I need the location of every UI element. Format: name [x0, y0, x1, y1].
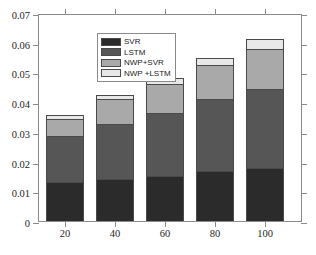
- chart-legend: SVRLSTMNWP+SVRNWP +LSTM: [97, 33, 176, 82]
- y-axis-label: 0.03: [12, 128, 30, 139]
- x-axis-label: 40: [110, 228, 121, 239]
- bar-segment-svr[interactable]: [96, 179, 134, 221]
- bar-segment-nwp-svr[interactable]: [96, 99, 134, 124]
- plot-area: 00.010.020.030.040.050.060.07 2040608010…: [38, 14, 302, 222]
- x-axis-label: 20: [60, 228, 71, 239]
- x-axis-tick: [165, 221, 166, 227]
- x-axis-tick: [265, 221, 266, 227]
- bar-segment-lstm[interactable]: [196, 99, 234, 172]
- x-axis-label: 80: [210, 228, 221, 239]
- y-axis-tick-right: [301, 104, 307, 105]
- x-axis-label: 100: [257, 228, 273, 239]
- legend-swatch: [101, 69, 121, 77]
- legend-swatch: [101, 59, 121, 67]
- y-axis-tick-right: [301, 74, 307, 75]
- bar-segment-svr[interactable]: [246, 168, 284, 221]
- legend-item-svr[interactable]: SVR: [101, 37, 172, 47]
- legend-item-nwp-svr[interactable]: NWP+SVR: [101, 58, 172, 68]
- y-axis-tick-right: [301, 45, 307, 46]
- legend-label: NWP +LSTM: [124, 69, 171, 78]
- figure: 00.010.020.030.040.050.060.07 2040608010…: [0, 0, 316, 255]
- bar-segment-svr[interactable]: [196, 171, 234, 221]
- bar-segment-svr[interactable]: [46, 182, 84, 221]
- bar-100[interactable]: [246, 39, 284, 221]
- legend-label: NWP+SVR: [124, 58, 164, 67]
- y-axis-label: 0.07: [12, 10, 30, 21]
- bar-segment-svr[interactable]: [146, 176, 184, 221]
- bar-segment-lstm[interactable]: [46, 136, 84, 182]
- bar-80[interactable]: [196, 58, 234, 221]
- legend-swatch: [101, 38, 121, 46]
- x-axis-tick: [65, 221, 66, 227]
- bar-60[interactable]: [146, 78, 184, 221]
- y-axis-tick-right: [301, 193, 307, 194]
- y-axis-tick-right: [301, 15, 307, 16]
- y-axis-label: 0.05: [12, 69, 30, 80]
- bar-40[interactable]: [96, 95, 134, 221]
- bar-segment-nwp--lstm[interactable]: [246, 39, 284, 49]
- bar-segment-lstm[interactable]: [246, 89, 284, 168]
- legend-item-lstm[interactable]: LSTM: [101, 47, 172, 57]
- bar-segment-nwp-svr[interactable]: [46, 119, 84, 137]
- y-axis-tick-right: [301, 164, 307, 165]
- x-axis-tick: [215, 221, 216, 227]
- legend-swatch: [101, 48, 121, 56]
- bar-segment-lstm[interactable]: [146, 113, 184, 176]
- y-axis-label: 0.04: [12, 99, 30, 110]
- x-axis-label: 60: [160, 228, 171, 239]
- y-axis-label: 0.06: [12, 39, 30, 50]
- bar-segment-lstm[interactable]: [96, 124, 134, 179]
- bar-segment-nwp-svr[interactable]: [146, 84, 184, 113]
- legend-item-nwp--lstm[interactable]: NWP +LSTM: [101, 68, 172, 78]
- y-axis-tick-right: [301, 134, 307, 135]
- legend-label: LSTM: [124, 48, 145, 57]
- bar-segment-nwp-svr[interactable]: [196, 65, 234, 99]
- bar-20[interactable]: [46, 115, 84, 221]
- y-axis-label: 0.02: [12, 158, 30, 169]
- y-axis-tick-right: [301, 223, 307, 224]
- y-axis-label: 0: [25, 218, 30, 229]
- bar-segment-nwp--lstm[interactable]: [196, 58, 234, 65]
- y-axis-label: 0.01: [12, 188, 30, 199]
- x-axis-tick: [115, 221, 116, 227]
- y-axis-tick: [33, 223, 39, 224]
- legend-label: SVR: [124, 37, 140, 46]
- bar-segment-nwp-svr[interactable]: [246, 49, 284, 89]
